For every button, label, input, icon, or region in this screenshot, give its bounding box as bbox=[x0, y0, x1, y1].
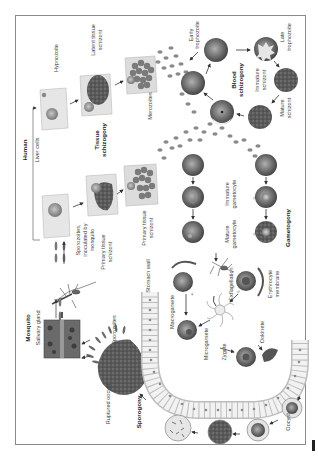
gametocyte-precursor-male bbox=[255, 154, 277, 176]
primary-tissue-schizont-cell bbox=[86, 174, 118, 216]
label-immature-gametocyte: Immature bbox=[224, 182, 230, 206]
label-zygote: Zygote bbox=[221, 343, 227, 360]
label-primary-tissue-schizont-a-line2: schizont bbox=[107, 241, 113, 262]
section-label-mosquito: Mosquito bbox=[24, 314, 31, 342]
label-blood-schizogony-line2: schizogony bbox=[237, 62, 244, 97]
label-sporozoites-inoculated-line3: mosquito bbox=[89, 229, 95, 252]
ring-cell bbox=[181, 71, 205, 95]
label-late-trophozoite: Late bbox=[279, 32, 285, 43]
malaria-life-cycle-diagram: ♀ ♀ ♂ ♂ ♀ ♂ Mosquito Salivary gland Huma… bbox=[0, 0, 318, 459]
label-microgamete: Microgamete bbox=[203, 328, 209, 360]
immature-schizont-cell bbox=[274, 68, 298, 92]
label-tissue-schizogony-line2: schizogony bbox=[100, 122, 107, 157]
label-early-trophozoite-line2: trophozoite bbox=[194, 21, 200, 49]
female-symbol: ♀ bbox=[200, 231, 205, 237]
label-ookinete: Ookinete bbox=[259, 321, 265, 343]
hypnozoite-liver-cell bbox=[40, 88, 68, 130]
label-stomach-wall: Stomach wall bbox=[145, 259, 151, 292]
primary-tissue-schizont-bursting bbox=[124, 164, 158, 206]
diagram-canvas: ♀ ♀ ♂ ♂ ♀ ♂ Mosquito Salivary gland Huma… bbox=[0, 0, 318, 459]
label-ruptured-oocyst: Ruptured oocyst bbox=[105, 383, 111, 424]
macrogamete-precursor bbox=[173, 272, 193, 292]
label-salivary-gland: Salivary gland bbox=[35, 310, 41, 345]
label-immature-gametocyte-line2: gametocyte bbox=[231, 180, 237, 209]
label-macrogamete: Macrogamete bbox=[169, 295, 175, 329]
label-latent-tissue-schizont-line2: schizont bbox=[97, 29, 103, 50]
oocyst-mature bbox=[208, 420, 232, 444]
male-symbol: ♂ bbox=[236, 289, 241, 295]
label-exflagellation: Exflagellation bbox=[228, 267, 234, 300]
male-symbol: ♂ bbox=[252, 195, 257, 201]
page-edge-mark bbox=[312, 440, 315, 451]
salivary-gland bbox=[44, 312, 80, 358]
ookinete bbox=[262, 348, 278, 362]
tissue-schizont-bursting bbox=[125, 56, 157, 94]
label-erythrocyte-membrane-line2: membrane bbox=[274, 271, 280, 298]
label-sporozoites-inoculated: Sporozoites, bbox=[75, 224, 81, 256]
section-label-human: Human bbox=[21, 139, 28, 160]
label-primary-tissue-schizont-a: Primary tissue bbox=[100, 234, 106, 269]
gametogony-group bbox=[182, 154, 277, 261]
label-mature-gametocyte-line2: gametocyte bbox=[231, 220, 237, 249]
label-latent-tissue-schizont: Latent tissue bbox=[90, 24, 96, 56]
label-oocyst: Oocyst bbox=[285, 413, 291, 431]
label-hypnozoite: Hypnozoite bbox=[53, 44, 59, 72]
label-mature-gametocyte: Mature bbox=[224, 225, 230, 242]
label-mature-schizont: Mature bbox=[279, 99, 285, 116]
merozoites-cluster bbox=[155, 46, 260, 160]
label-gametogony: Gametogony bbox=[284, 209, 291, 247]
female-symbol: ♀ bbox=[200, 195, 205, 201]
label-mature-schizont-line2: schizont bbox=[286, 97, 292, 118]
label-primary-tissue-schizont-b: Primary tissue bbox=[141, 210, 147, 245]
oocyst-dividing bbox=[165, 415, 191, 441]
label-tissue-schizogony: Tissue bbox=[93, 130, 100, 150]
male-symbol: ♂ bbox=[252, 231, 257, 237]
label-immature-schizont: Immature bbox=[254, 68, 260, 92]
latent-tissue-schizont-cell bbox=[80, 74, 112, 116]
label-sporozoites-inoculated-line2: inoculated by bbox=[82, 223, 88, 256]
gametocyte-precursor-female bbox=[182, 154, 204, 176]
female-symbol: ♀ bbox=[190, 291, 195, 297]
label-immature-schizont-line2: schizont bbox=[261, 69, 267, 90]
label-blood-schizogony: Blood bbox=[230, 71, 237, 89]
mature-schizont-cell bbox=[248, 105, 272, 129]
label-primary-tissue-schizont-b-line2: schizont bbox=[148, 217, 154, 238]
human-bracket-line bbox=[33, 108, 40, 240]
label-late-trophozoite-line2: trophozoite bbox=[286, 23, 292, 51]
label-erythrocyte-membrane: Erythrocyte bbox=[267, 270, 273, 298]
early-trophozoite-cell bbox=[204, 38, 228, 62]
label-liver-cells: Liver cells bbox=[34, 137, 40, 162]
label-sporogony: Sporogony bbox=[135, 395, 142, 428]
sporozoite-liver-cell bbox=[42, 194, 70, 238]
label-sporozoites: Sporozoites bbox=[111, 315, 117, 345]
label-merozoites: Merozoites bbox=[147, 92, 153, 120]
